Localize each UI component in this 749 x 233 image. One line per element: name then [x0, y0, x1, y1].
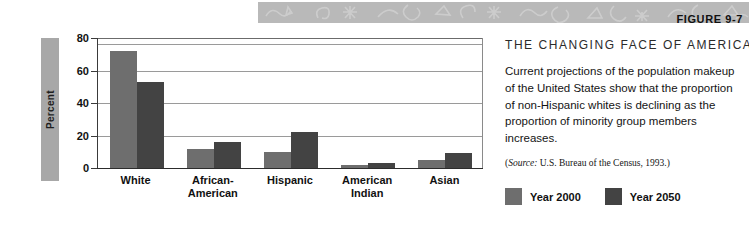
y-tick-mark: [91, 38, 97, 39]
x-axis-category-labels: WhiteAfrican-AmericanHispanicAmericanInd…: [97, 174, 483, 214]
legend-label: Year 2000: [530, 191, 581, 203]
legend-label: Year 2050: [630, 191, 681, 203]
category-label: African-American: [174, 174, 251, 200]
bar: [418, 160, 445, 168]
bar: [187, 149, 214, 169]
x-axis-baseline: [97, 168, 483, 169]
source-citation: (Source: U.S. Bureau of the Census, 1993…: [505, 158, 749, 168]
plot-wrapper: 020406080: [63, 38, 483, 183]
y-tick-mark: [91, 136, 97, 137]
y-tick-label: 40: [77, 98, 89, 109]
legend-item: Year 2000: [505, 188, 581, 205]
figure-label: FIGURE 9-7: [676, 13, 743, 23]
decorative-banner: FIGURE 9-7: [258, 2, 749, 23]
bar-group: [187, 38, 241, 168]
panel-body-text: Current projections of the population ma…: [505, 63, 743, 147]
legend-swatch: [605, 188, 622, 205]
category-label: Asian: [406, 174, 483, 187]
legend-item: Year 2050: [605, 188, 681, 205]
y-tick-mark: [91, 168, 97, 169]
category-label: Hispanic: [251, 174, 328, 187]
bar: [214, 142, 241, 168]
chart-legend: Year 2000Year 2050: [505, 188, 705, 205]
bar: [264, 152, 291, 168]
text-panel: THE CHANGING FACE OF AMERICA Current pro…: [505, 30, 749, 233]
banner-pattern-icon: [258, 2, 749, 23]
category-label: AmericanIndian: [329, 174, 406, 200]
bar: [137, 82, 164, 168]
source-rest: U.S. Bureau of the Census, 1993.): [537, 158, 669, 168]
bar-group: [264, 38, 318, 168]
plot-area: [97, 38, 483, 168]
panel-heading: THE CHANGING FACE OF AMERICA: [505, 38, 749, 52]
y-tick-mark: [91, 71, 97, 72]
source-word: Source:: [508, 158, 537, 168]
y-tick-label: 60: [77, 65, 89, 76]
bar: [291, 132, 318, 168]
y-tick-mark: [91, 103, 97, 104]
bar-group: [341, 38, 395, 168]
y-tick-label: 20: [77, 130, 89, 141]
legend-swatch: [505, 188, 522, 205]
bar: [110, 51, 137, 168]
bar: [445, 153, 472, 168]
y-tick-label: 80: [77, 33, 89, 44]
chart-panel: Percent 020406080 WhiteAfrican-AmericanH…: [0, 26, 498, 233]
y-tick-label: 0: [83, 163, 89, 174]
bar-group: [110, 38, 164, 168]
bar-group: [418, 38, 472, 168]
category-label: White: [97, 174, 174, 187]
y-axis-tick-labels: 020406080: [63, 38, 89, 168]
y-axis-label: Percent: [41, 38, 59, 181]
